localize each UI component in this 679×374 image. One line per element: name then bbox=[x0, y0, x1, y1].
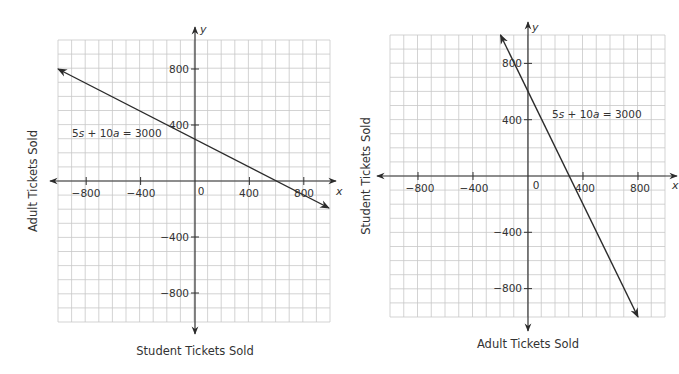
right-chart-svg: −800 −400 0 400 800 800 400 −400 −800 y … bbox=[340, 0, 679, 374]
right-ytick-neg800: −800 bbox=[493, 282, 522, 294]
left-ytick-neg800: −800 bbox=[160, 287, 189, 299]
right-ytick-800: 800 bbox=[502, 57, 522, 69]
left-y-axis-title: Adult Tickets Sold bbox=[26, 130, 40, 232]
left-ytick-400: 400 bbox=[169, 119, 189, 131]
left-x-axis-title: Student Tickets Sold bbox=[136, 344, 253, 358]
right-x-axis-name: x bbox=[671, 179, 679, 192]
left-chart-svg: −800 −400 0 400 800 800 400 −400 −800 y … bbox=[0, 0, 340, 374]
left-origin-label: 0 bbox=[198, 185, 205, 197]
right-xtick-neg400: −400 bbox=[460, 182, 489, 194]
left-xtick-neg400: −400 bbox=[127, 187, 156, 199]
right-ytick-400: 400 bbox=[502, 114, 522, 126]
left-xtick-800: 800 bbox=[294, 187, 314, 199]
right-xtick-neg800: −800 bbox=[406, 182, 435, 194]
right-x-axis-title: Adult Tickets Sold bbox=[477, 337, 579, 351]
left-xtick-neg800: −800 bbox=[72, 187, 101, 199]
right-xtick-400: 400 bbox=[575, 182, 595, 194]
right-xtick-800: 800 bbox=[630, 182, 650, 194]
right-y-axis-title: Student Tickets Sold bbox=[359, 117, 373, 234]
left-y-axis-name: y bbox=[199, 23, 207, 36]
left-equation-label: 5s + 10a = 3000 bbox=[72, 127, 162, 139]
right-y-axis-name: y bbox=[531, 21, 539, 34]
right-origin-label: 0 bbox=[533, 179, 540, 191]
right-equation-label: 5s + 10a = 3000 bbox=[552, 108, 642, 120]
right-ytick-neg400: −400 bbox=[493, 226, 522, 238]
left-xtick-400: 400 bbox=[239, 187, 259, 199]
right-chart: −800 −400 0 400 800 800 400 −400 −800 y … bbox=[340, 0, 679, 374]
left-chart: −800 −400 0 400 800 800 400 −400 −800 y … bbox=[0, 0, 340, 374]
left-ytick-800: 800 bbox=[169, 63, 189, 75]
left-ytick-neg400: −400 bbox=[160, 231, 189, 243]
